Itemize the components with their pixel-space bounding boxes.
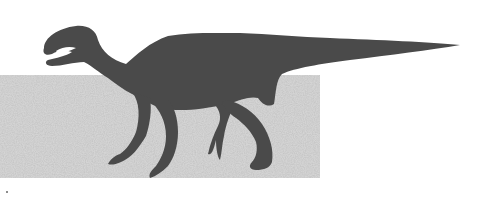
stray-dot bbox=[6, 191, 8, 193]
illustration-canvas bbox=[0, 0, 480, 198]
dinosaur-illustration bbox=[0, 0, 480, 198]
